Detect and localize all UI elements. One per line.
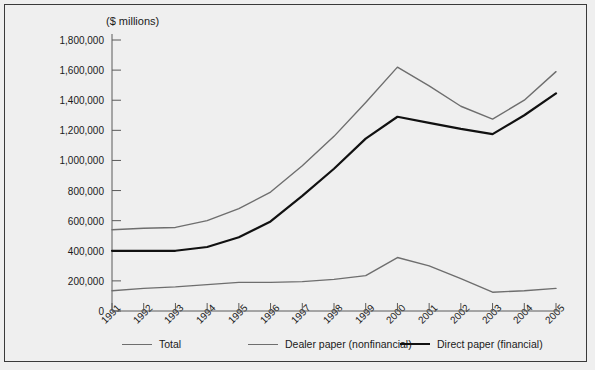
legend-label: Dealer paper (nonfinancial) bbox=[285, 338, 412, 350]
legend-item[interactable]: Dealer paper (nonfinancial) bbox=[248, 338, 412, 350]
legend-label: Direct paper (financial) bbox=[437, 338, 543, 350]
legend-line-swatch bbox=[400, 343, 430, 345]
legend-item[interactable]: Direct paper (financial) bbox=[400, 338, 543, 350]
legend-item[interactable]: Total bbox=[122, 338, 181, 350]
legend-label: Total bbox=[159, 338, 181, 350]
line-chart: ($ millions) 0200,000400,000600,000800,0… bbox=[0, 0, 595, 370]
series-line bbox=[112, 258, 556, 293]
legend-line-swatch bbox=[248, 344, 278, 345]
plot-area bbox=[0, 0, 595, 370]
series-line bbox=[112, 67, 556, 230]
legend-line-swatch bbox=[122, 344, 152, 345]
